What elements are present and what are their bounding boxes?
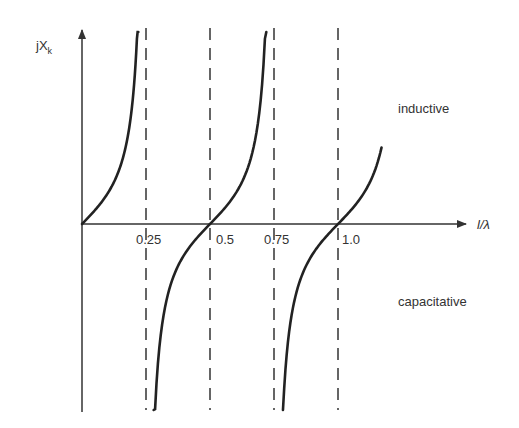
x-axis-label: l/λ: [477, 217, 490, 232]
tick-labels: 0.250.50.751.0: [136, 232, 360, 247]
asymptote-lines: [146, 28, 338, 410]
x-tick-label: 0.5: [216, 232, 234, 247]
reactance-curve-branch-1: [82, 32, 138, 224]
y-axis-label: jXk: [35, 38, 53, 56]
reactance-curve-branch-3: [283, 148, 382, 410]
curves: [82, 32, 382, 410]
inductive-label: inductive: [398, 101, 449, 116]
capacitative-label: capacitative: [398, 294, 467, 309]
x-tick-label: 1.0: [342, 232, 360, 247]
reactance-chart: 0.250.50.751.0 jXk l/λ inductive capacit…: [0, 0, 519, 428]
x-tick-label: 0.75: [264, 232, 289, 247]
x-tick-label: 0.25: [136, 232, 161, 247]
